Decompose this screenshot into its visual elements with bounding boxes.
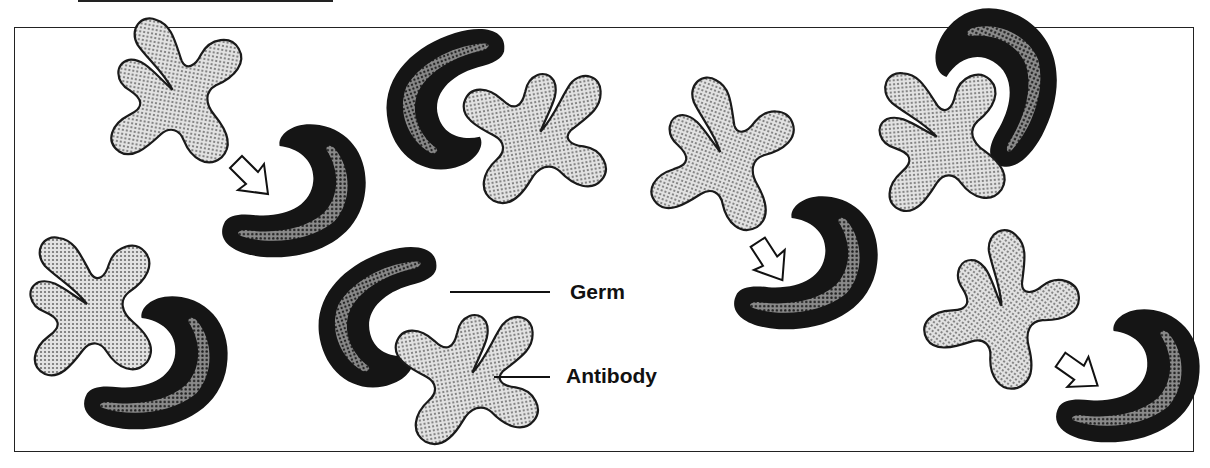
pair-2-antibody [30,237,151,375]
germ-label: Germ [570,280,625,304]
antibody-label: Antibody [566,364,657,388]
pair-5-arrow-icon [745,235,790,280]
pair-5-antibody [643,70,804,241]
antibody-germ-diagram [0,0,1210,468]
antibody-leader-line [494,376,550,378]
pair-1-arrow-icon [230,156,268,194]
pair-1-antibody [104,14,247,171]
pair-3-antibody [460,64,617,207]
pair-6-antibody [875,65,1007,213]
pair-7-arrow-icon [1054,348,1098,392]
germ-leader-line [450,291,550,293]
